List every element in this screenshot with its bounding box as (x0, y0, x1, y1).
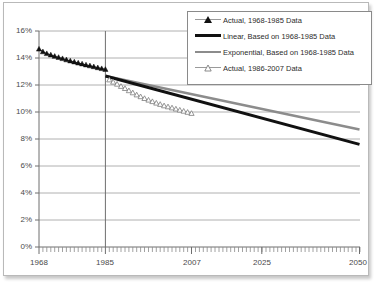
open-triangle-key-icon (193, 61, 223, 75)
legend-label-actual-1986-2007: Actual, 1986-2007 Data (223, 64, 302, 73)
x-tick-label-1968: 1968 (19, 259, 59, 267)
x-axis-minor-ticks (43, 247, 360, 252)
y-tick-label-0: 0% (4, 243, 32, 251)
y-tick-label-2: 2% (4, 216, 32, 224)
thick-black-line-key-icon (193, 29, 223, 43)
y-tick-label-12: 12% (4, 81, 32, 89)
y-tick-label-10: 10% (4, 108, 32, 116)
chart-legend: Actual, 1968-1985 Data Linear, Based on … (187, 11, 372, 85)
y-tick-label-4: 4% (4, 189, 32, 197)
legend-item-actual-1986-2007[interactable]: Actual, 1986-2007 Data (188, 60, 371, 76)
legend-item-exponential[interactable]: Exponential, Based on 1968-1985 Data (188, 44, 371, 60)
y-tick-label-8: 8% (4, 135, 32, 143)
series-actual-1968-1985 (36, 46, 108, 71)
legend-item-linear[interactable]: Linear, Based on 1968-1985 Data (188, 28, 371, 44)
y-axis-ticks (35, 31, 39, 247)
gray-line-key-icon (193, 45, 223, 59)
legend-label-exponential: Exponential, Based on 1968-1985 Data (223, 48, 354, 57)
x-tick-label-2025: 2025 (242, 259, 282, 267)
y-tick-label-14: 14% (4, 54, 32, 62)
y-tick-label-6: 6% (4, 162, 32, 170)
legend-label-linear: Linear, Based on 1968-1985 Data (223, 32, 335, 41)
x-tick-label-2007: 2007 (172, 259, 212, 267)
chart-figure-frame: 16% 14% 12% 10% 8% 6% 4% 2% 0% 1968 1985… (3, 2, 369, 276)
y-tick-label-16: 16% (4, 27, 32, 35)
legend-item-actual-1968-1985[interactable]: Actual, 1968-1985 Data (188, 12, 371, 28)
filled-triangle-key-icon (193, 13, 223, 27)
x-tick-label-1985: 1985 (85, 259, 125, 267)
x-tick-label-2050: 2050 (338, 259, 377, 267)
series-linear-line (105, 76, 359, 144)
legend-label-actual-1968-1985: Actual, 1968-1985 Data (223, 16, 302, 25)
